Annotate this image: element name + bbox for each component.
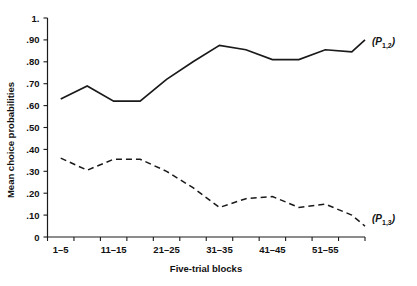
series-label-p13-main: (P bbox=[372, 213, 382, 224]
y-tick-label: .30 bbox=[26, 166, 39, 177]
y-tick-label: .20 bbox=[26, 188, 39, 199]
series-label-p12-close: ) bbox=[391, 36, 396, 47]
series-line-p12 bbox=[61, 40, 365, 101]
series-label-p12: (P1,2) bbox=[372, 36, 396, 50]
y-tick-label: .60 bbox=[26, 100, 39, 111]
y-tick-label: .50 bbox=[26, 122, 39, 133]
x-tick-label: 1–5 bbox=[53, 244, 70, 255]
series-label-p13-close: ) bbox=[391, 213, 396, 224]
x-tick-label: 11–15 bbox=[101, 244, 128, 255]
y-tick-label: .10 bbox=[26, 210, 39, 221]
x-axis-ticks bbox=[48, 237, 366, 241]
y-tick-label: .90 bbox=[26, 34, 39, 45]
y-tick-label: 0 bbox=[34, 232, 39, 243]
x-axis-tick-labels: 1–511–1521–2531–3541–4551–55 bbox=[53, 244, 339, 255]
x-tick-label: 21–25 bbox=[153, 244, 180, 255]
y-tick-label: .70 bbox=[26, 78, 39, 89]
x-axis-title: Five-trial blocks bbox=[170, 263, 242, 274]
series-label-p13-subscript: 1,3 bbox=[382, 219, 392, 227]
series-label-p12-subscript: 1,2 bbox=[382, 42, 392, 50]
y-tick-label: .80 bbox=[26, 56, 39, 67]
line-chart-figure: 0.10.20.30.40.50.60.70.80.901. 1–511–152… bbox=[0, 0, 417, 286]
x-tick-label: 51–55 bbox=[312, 244, 339, 255]
series-line-p13 bbox=[61, 158, 365, 226]
y-axis-title: Mean choice probabilities bbox=[5, 82, 16, 198]
y-tick-label: .40 bbox=[26, 144, 39, 155]
y-axis-tick-labels: 0.10.20.30.40.50.60.70.80.901. bbox=[26, 13, 39, 243]
series-label-p12-main: (P bbox=[372, 36, 382, 47]
axes bbox=[44, 18, 366, 241]
series-label-p13: (P1,3) bbox=[372, 213, 396, 227]
y-tick-label: 1. bbox=[32, 13, 40, 24]
x-tick-label: 41–45 bbox=[259, 244, 286, 255]
x-tick-label: 31–35 bbox=[206, 244, 233, 255]
chart-canvas: 0.10.20.30.40.50.60.70.80.901. 1–511–152… bbox=[0, 0, 417, 286]
